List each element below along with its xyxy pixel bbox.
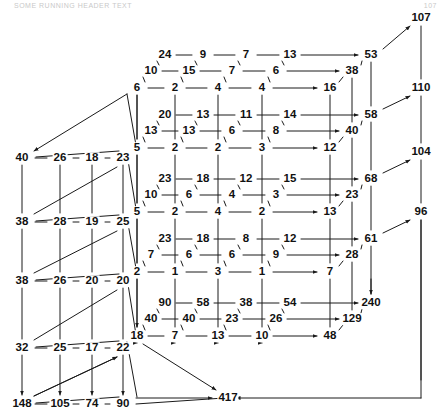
node-block-2-tier-middle-3: 8 (272, 125, 280, 137)
node-block-5-tier-bottom-3: 10 (255, 330, 270, 342)
grand-total-1: 110 (411, 82, 432, 94)
node-block-5-tier-top-1: 58 (196, 297, 211, 309)
diagram-lines (0, 0, 447, 420)
grand-total-2: 104 (410, 146, 431, 158)
node-block-3-tier-top-3: 15 (283, 173, 298, 185)
node-left-row-1-0: 40 (15, 152, 30, 164)
node-left-row-2-2: 19 (85, 216, 100, 228)
node-left-row-5-0: 148 (11, 398, 32, 410)
node-block-2-tier-top-1: 13 (196, 109, 211, 121)
node-block-1-tier-bottom-2: 4 (214, 82, 222, 94)
node-block-4-tier-bottom-2: 3 (214, 266, 222, 278)
node-block-3-tier-middle-2: 4 (228, 189, 236, 201)
grand-total-0: 107 (410, 12, 431, 24)
node-block-2-tier-bottom-0: 5 (133, 142, 141, 154)
node-left-row-2-0: 38 (15, 216, 30, 228)
node-block-2-tier-bottom-1: 2 (171, 142, 179, 154)
total-block-4-tier-bottom: 7 (326, 266, 334, 278)
node-block-5-tier-middle-2: 23 (225, 313, 240, 325)
node-left-row-2-3: 25 (116, 216, 131, 228)
node-left-row-4-0: 32 (15, 342, 30, 354)
node-block-3-tier-top-2: 12 (239, 173, 254, 185)
node-left-row-4-1: 25 (53, 342, 68, 354)
grand-total-3: 96 (414, 206, 429, 218)
node-left-row-4-3: 22 (116, 342, 131, 354)
node-block-4-tier-middle-0: 7 (147, 249, 155, 261)
node-block-2-tier-bottom-2: 2 (214, 142, 222, 154)
node-left-row-2-1: 28 (53, 216, 68, 228)
node-block-5-tier-bottom-2: 13 (211, 330, 226, 342)
node-left-row-1-3: 23 (116, 152, 131, 164)
node-block-1-tier-bottom-1: 2 (171, 82, 179, 94)
total-block-4-tier-middle: 28 (345, 249, 360, 261)
node-block-3-tier-bottom-0: 5 (133, 206, 141, 218)
node-block-2-tier-middle-2: 6 (228, 125, 236, 137)
node-block-4-tier-top-1: 18 (196, 233, 211, 245)
node-block-5-tier-middle-1: 40 (182, 313, 197, 325)
node-block-4-tier-bottom-0: 2 (133, 266, 141, 278)
node-block-5-tier-top-3: 54 (283, 297, 298, 309)
node-block-1-tier-bottom-3: 4 (258, 82, 266, 94)
node-block-4-tier-top-2: 8 (242, 233, 250, 245)
node-block-2-tier-middle-1: 13 (182, 125, 197, 137)
node-block-5-tier-bottom-1: 7 (171, 330, 179, 342)
total-block-1-tier-top: 53 (364, 49, 379, 61)
node-block-3-tier-middle-3: 3 (272, 189, 280, 201)
node-block-5-tier-top-2: 38 (239, 297, 254, 309)
total-block-5-tier-middle: 129 (341, 313, 362, 325)
node-left-row-5-2: 74 (85, 398, 100, 410)
node-block-5-tier-bottom-0: 18 (130, 330, 145, 342)
total-block-2-tier-top: 58 (364, 109, 379, 121)
node-left-row-3-2: 20 (85, 275, 100, 287)
node-block-1-tier-middle-0: 10 (144, 65, 159, 77)
node-block-3-tier-bottom-2: 4 (214, 206, 222, 218)
total-block-3-tier-top: 68 (364, 173, 379, 185)
node-block-3-tier-middle-0: 10 (144, 189, 159, 201)
node-left-row-3-0: 38 (15, 275, 30, 287)
node-block-1-tier-middle-3: 6 (272, 65, 280, 77)
node-left-row-4-2: 17 (85, 342, 100, 354)
node-block-5-tier-middle-3: 26 (269, 313, 284, 325)
total-block-3-tier-bottom: 13 (323, 206, 338, 218)
node-block-1-tier-bottom-0: 6 (133, 82, 141, 94)
node-block-4-tier-middle-3: 9 (272, 249, 280, 261)
node-left-row-3-3: 20 (116, 275, 131, 287)
node-block-2-tier-top-3: 14 (283, 109, 298, 121)
node-left-row-5-1: 105 (49, 398, 70, 410)
node-left-row-5-3: 90 (116, 398, 131, 410)
node-block-3-tier-top-0: 23 (158, 173, 173, 185)
node-block-2-tier-bottom-3: 3 (258, 142, 266, 154)
node-block-1-tier-top-2: 7 (242, 49, 250, 61)
node-block-4-tier-bottom-1: 1 (171, 266, 179, 278)
total-block-2-tier-bottom: 12 (323, 142, 338, 154)
node-block-1-tier-middle-1: 15 (182, 65, 197, 77)
node-left-row-1-2: 18 (85, 152, 100, 164)
node-block-4-tier-middle-2: 6 (228, 249, 236, 261)
node-block-4-tier-bottom-3: 1 (258, 266, 266, 278)
node-block-4-tier-middle-1: 6 (185, 249, 193, 261)
total-block-5-tier-top: 240 (360, 297, 381, 309)
total-block-1-tier-middle: 38 (345, 65, 360, 77)
node-block-2-tier-top-2: 11 (239, 109, 253, 121)
total-block-5-tier-bottom: 48 (323, 330, 338, 342)
node-block-5-tier-middle-0: 40 (144, 313, 159, 325)
total-block-1-tier-bottom: 16 (323, 82, 338, 94)
node-left-row-1-1: 26 (53, 152, 68, 164)
node-block-5-tier-top-0: 90 (158, 297, 173, 309)
node-block-1-tier-top-0: 24 (158, 49, 173, 61)
node-block-2-tier-middle-0: 13 (144, 125, 159, 137)
node-block-3-tier-bottom-3: 2 (258, 206, 266, 218)
node-block-1-tier-top-1: 9 (199, 49, 207, 61)
node-block-1-tier-middle-2: 7 (228, 65, 236, 77)
node-block-4-tier-top-0: 23 (158, 233, 173, 245)
diagram-page: SOME RUNNING HEADER TEXT 107 24971353101… (0, 0, 447, 420)
total-block-3-tier-middle: 23 (345, 189, 360, 201)
node-block-4-tier-top-3: 12 (283, 233, 298, 245)
node-left-row-3-1: 26 (53, 275, 68, 287)
final-total: 417 (217, 392, 238, 404)
node-block-3-tier-top-1: 18 (196, 173, 211, 185)
node-block-3-tier-bottom-1: 2 (171, 206, 179, 218)
total-block-2-tier-middle: 40 (345, 125, 360, 137)
total-block-4-tier-top: 61 (364, 233, 379, 245)
node-block-3-tier-middle-1: 6 (185, 189, 193, 201)
